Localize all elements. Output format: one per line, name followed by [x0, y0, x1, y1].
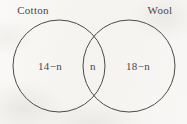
region-label-cotton-only: 14−n [38, 61, 62, 72]
venn-diagram-figure: Cotton Wool 14−n n 18−n [0, 0, 187, 124]
set-label-cotton: Cotton [17, 5, 49, 16]
region-label-intersection: n [90, 61, 96, 72]
set-label-wool: Wool [148, 5, 173, 16]
region-label-wool-only: 18−n [126, 61, 150, 72]
